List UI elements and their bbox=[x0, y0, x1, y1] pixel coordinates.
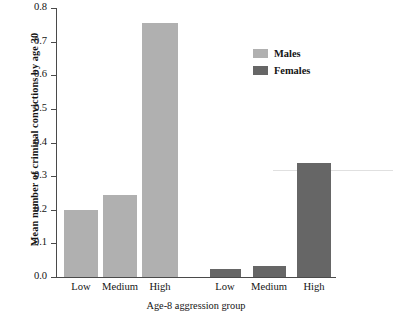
legend-swatch-females-icon bbox=[253, 66, 268, 75]
y-axis-tick-label: 0.2 bbox=[0, 203, 47, 214]
y-axis-tick-label: 0.8 bbox=[0, 1, 47, 12]
y-axis-tick-label: 0.7 bbox=[0, 35, 47, 46]
y-axis-tick-label: 0.0 bbox=[0, 270, 47, 281]
chart-legend: Males Females bbox=[253, 46, 333, 80]
y-axis-tick bbox=[51, 277, 57, 278]
y-axis-tick-label: 0.6 bbox=[0, 68, 47, 79]
legend-item-females: Females bbox=[253, 63, 333, 77]
bar-females-low bbox=[210, 269, 241, 277]
bar-males-high bbox=[142, 23, 178, 277]
legend-label-males: Males bbox=[274, 48, 301, 59]
legend-swatch-males-icon bbox=[253, 49, 268, 58]
bar-females-high bbox=[297, 163, 331, 277]
bar-males-low bbox=[64, 210, 98, 277]
reference-line-artifact bbox=[273, 170, 393, 171]
x-axis-title: Age-8 aggression group bbox=[56, 300, 336, 311]
y-axis-tick-label: 0.4 bbox=[0, 136, 47, 147]
bar-females-medium bbox=[253, 266, 286, 277]
y-axis-tick-label: 0.3 bbox=[0, 169, 47, 180]
legend-item-males: Males bbox=[253, 46, 333, 60]
legend-label-females: Females bbox=[274, 65, 310, 76]
y-axis-tick-label: 0.1 bbox=[0, 236, 47, 247]
y-axis-tick-label: 0.5 bbox=[0, 102, 47, 113]
x-axis-line bbox=[56, 277, 336, 278]
bar-males-medium bbox=[103, 195, 137, 277]
x-axis-tick-label: High bbox=[274, 281, 354, 292]
